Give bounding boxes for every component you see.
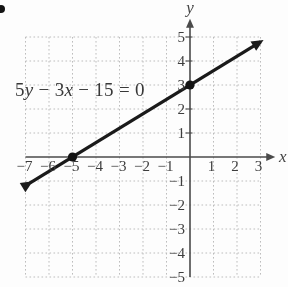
x-tick-label--6: −6 bbox=[40, 158, 56, 174]
y-tick-label--2: −2 bbox=[169, 197, 185, 213]
equation-variable: x bbox=[64, 79, 73, 100]
graph-page: −7−6−5−4−3−2−112354321−1−2−3−4−5 x y 5y … bbox=[0, 0, 288, 287]
y-tick-label-3: 3 bbox=[178, 77, 186, 93]
equation-text: 5 bbox=[15, 79, 25, 100]
x-tick-label-2: 2 bbox=[231, 158, 239, 174]
x-tick-label--5: −5 bbox=[64, 158, 80, 174]
x-tick-label--2: −2 bbox=[134, 158, 150, 174]
y-tick-label--3: −3 bbox=[169, 221, 185, 237]
point-0-3 bbox=[185, 80, 194, 89]
equation-variable: y bbox=[25, 79, 34, 100]
scanned-figure: −7−6−5−4−3−2−112354321−1−2−3−4−5 x y 5y … bbox=[0, 0, 288, 287]
y-tick-label--1: −1 bbox=[169, 173, 185, 189]
y-tick-label-2: 2 bbox=[178, 101, 186, 117]
equation-label: 5y − 3x − 15 = 0 bbox=[15, 80, 145, 99]
coordinate-plane-graph: −7−6−5−4−3−2−112354321−1−2−3−4−5 x y bbox=[0, 0, 288, 287]
equation-text: − 15 = 0 bbox=[73, 79, 145, 100]
x-tick-label--7: −7 bbox=[17, 158, 33, 174]
axes bbox=[26, 21, 274, 277]
y-tick-label--5: −5 bbox=[169, 269, 185, 285]
x-tick-label-3: 3 bbox=[255, 158, 263, 174]
x-tick-label-1: 1 bbox=[208, 158, 216, 174]
y-tick-label-1: 1 bbox=[178, 125, 186, 141]
y-tick-label-4: 4 bbox=[178, 53, 186, 69]
x-tick-label--4: −4 bbox=[87, 158, 103, 174]
y-tick-label--4: −4 bbox=[169, 245, 185, 261]
x-tick-label--3: −3 bbox=[111, 158, 127, 174]
x-axis-label: x bbox=[278, 147, 287, 166]
y-axis-label: y bbox=[184, 0, 194, 17]
y-tick-label-5: 5 bbox=[178, 29, 186, 45]
equation-text: − 3 bbox=[34, 79, 65, 100]
